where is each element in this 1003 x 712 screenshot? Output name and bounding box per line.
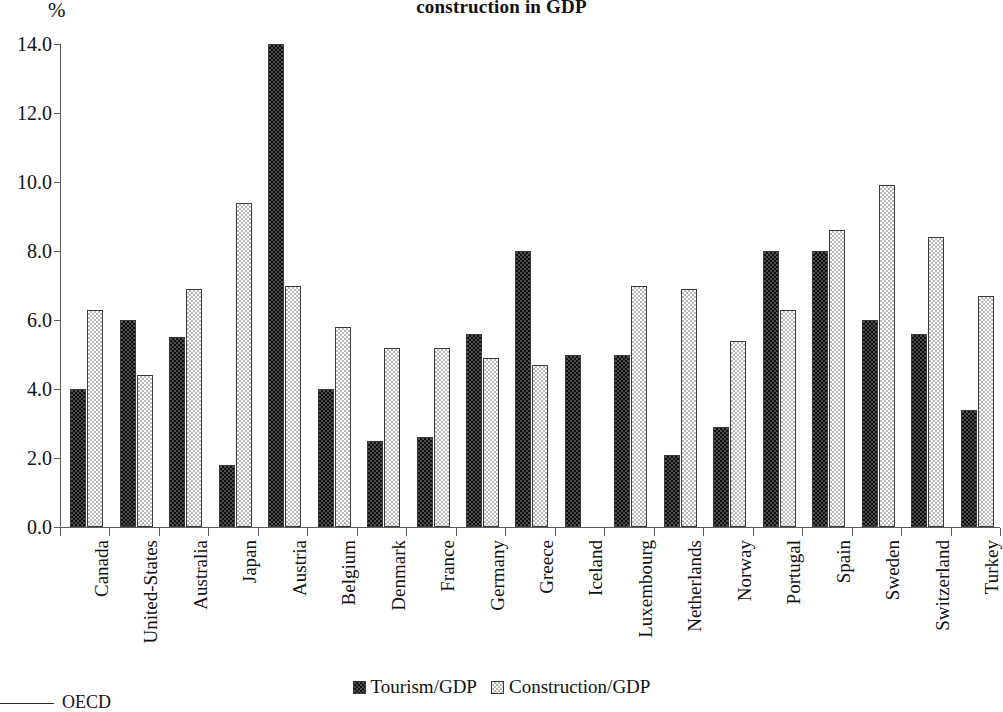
bar-tourism[interactable] bbox=[417, 437, 433, 527]
x-axis-tick-mark bbox=[555, 528, 556, 536]
bar-construction[interactable] bbox=[87, 310, 103, 527]
bar-group bbox=[753, 44, 802, 527]
bar-group bbox=[703, 44, 752, 527]
bar-tourism[interactable] bbox=[664, 455, 680, 527]
bar-group bbox=[456, 44, 505, 527]
x-axis-tick-mark bbox=[307, 528, 308, 536]
y-axis-tick-label: 0.0 bbox=[0, 517, 52, 537]
bar-group bbox=[852, 44, 901, 527]
bar-tourism[interactable] bbox=[318, 389, 334, 527]
bar-construction[interactable] bbox=[483, 358, 499, 527]
legend-item-construction[interactable]: Construction/GDP bbox=[491, 676, 650, 698]
x-axis-tick-mark bbox=[1000, 528, 1001, 536]
bar-tourism[interactable] bbox=[169, 337, 185, 527]
bar-construction[interactable] bbox=[335, 327, 351, 527]
bar-group bbox=[307, 44, 356, 527]
bar-construction[interactable] bbox=[137, 375, 153, 527]
chart-title: Share of tourism and construction in GDP… bbox=[0, 0, 1003, 18]
bar-group bbox=[901, 44, 950, 527]
x-axis-tick-mark bbox=[456, 528, 457, 536]
x-axis-label: Switzerland bbox=[933, 540, 952, 631]
bar-tourism[interactable] bbox=[70, 389, 86, 527]
x-axis-label: Luxembourg bbox=[636, 540, 655, 638]
x-axis-tick-mark bbox=[357, 528, 358, 536]
x-axis-tick-mark bbox=[802, 528, 803, 536]
bar-tourism[interactable] bbox=[961, 410, 977, 527]
bar-construction[interactable] bbox=[434, 348, 450, 527]
x-axis-label: Iceland bbox=[586, 540, 605, 596]
x-axis-tick-mark bbox=[60, 528, 61, 536]
bar-group bbox=[258, 44, 307, 527]
bar-tourism[interactable] bbox=[565, 355, 581, 528]
y-axis-unit-label: % bbox=[48, 0, 66, 23]
x-axis-tick-mark bbox=[753, 528, 754, 536]
plot-area bbox=[60, 44, 1000, 527]
source-note: OECD bbox=[0, 692, 111, 712]
bar-group bbox=[159, 44, 208, 527]
bar-tourism[interactable] bbox=[862, 320, 878, 527]
chart-title-visible-line: construction in GDP bbox=[0, 0, 1003, 18]
x-axis-tick-mark bbox=[258, 528, 259, 536]
legend-label-construction: Construction/GDP bbox=[509, 676, 650, 698]
x-axis-label: Belgium bbox=[339, 540, 358, 605]
x-axis-tick-mark bbox=[109, 528, 110, 536]
bar-group bbox=[951, 44, 1000, 527]
bar-construction[interactable] bbox=[384, 348, 400, 527]
x-axis-tick-mark bbox=[604, 528, 605, 536]
bar-construction[interactable] bbox=[928, 237, 944, 527]
bar-group bbox=[406, 44, 455, 527]
bar-construction[interactable] bbox=[780, 310, 796, 527]
bar-tourism[interactable] bbox=[268, 44, 284, 527]
bar-construction[interactable] bbox=[285, 286, 301, 528]
y-axis-tick-label: 6.0 bbox=[0, 310, 52, 330]
x-axis-label: Canada bbox=[92, 540, 111, 597]
x-axis-tick-mark bbox=[208, 528, 209, 536]
x-axis-line bbox=[60, 527, 1000, 528]
x-axis-label: Spain bbox=[834, 540, 853, 583]
x-axis-label: Germany bbox=[488, 540, 507, 611]
bar-tourism[interactable] bbox=[367, 441, 383, 527]
bar-construction[interactable] bbox=[681, 289, 697, 527]
y-axis-tick-label: 10.0 bbox=[0, 172, 52, 192]
bar-construction[interactable] bbox=[879, 185, 895, 527]
bar-tourism[interactable] bbox=[911, 334, 927, 527]
bar-tourism[interactable] bbox=[713, 427, 729, 527]
x-axis-label: Denmark bbox=[389, 540, 408, 611]
bar-group bbox=[208, 44, 257, 527]
bar-group bbox=[357, 44, 406, 527]
legend-swatch-tourism-icon bbox=[353, 681, 366, 694]
bar-group bbox=[604, 44, 653, 527]
bar-construction[interactable] bbox=[186, 289, 202, 527]
legend-label-tourism: Tourism/GDP bbox=[371, 676, 477, 698]
bar-tourism[interactable] bbox=[515, 251, 531, 527]
y-axis-tick-label: 8.0 bbox=[0, 241, 52, 261]
bar-tourism[interactable] bbox=[763, 251, 779, 527]
bar-tourism[interactable] bbox=[466, 334, 482, 527]
x-axis-label: Australia bbox=[191, 540, 210, 610]
legend-item-tourism[interactable]: Tourism/GDP bbox=[353, 676, 477, 698]
bar-construction[interactable] bbox=[236, 203, 252, 527]
bar-tourism[interactable] bbox=[812, 251, 828, 527]
x-axis-label: Sweden bbox=[883, 540, 902, 600]
x-axis-tick-mark bbox=[951, 528, 952, 536]
bar-construction[interactable] bbox=[730, 341, 746, 527]
bar-construction[interactable] bbox=[532, 365, 548, 527]
y-axis-tick-label: 4.0 bbox=[0, 379, 52, 399]
x-axis-label: Netherlands bbox=[685, 540, 704, 632]
x-axis-label: Austria bbox=[290, 540, 309, 596]
y-axis-tick-label: 14.0 bbox=[0, 34, 52, 54]
x-axis-tick-mark bbox=[901, 528, 902, 536]
bar-group bbox=[555, 44, 604, 527]
bar-construction[interactable] bbox=[829, 230, 845, 527]
x-axis-tick-mark bbox=[852, 528, 853, 536]
bar-construction[interactable] bbox=[631, 286, 647, 528]
chart-legend: Tourism/GDP Construction/GDP bbox=[0, 676, 1003, 698]
x-axis-label: Norway bbox=[735, 540, 754, 601]
bar-tourism[interactable] bbox=[120, 320, 136, 527]
bar-tourism[interactable] bbox=[614, 355, 630, 528]
x-axis-label: Turkey bbox=[982, 540, 1001, 594]
bar-construction[interactable] bbox=[978, 296, 994, 527]
bar-group bbox=[802, 44, 851, 527]
y-axis-tick-label: 2.0 bbox=[0, 448, 52, 468]
bar-tourism[interactable] bbox=[219, 465, 235, 527]
